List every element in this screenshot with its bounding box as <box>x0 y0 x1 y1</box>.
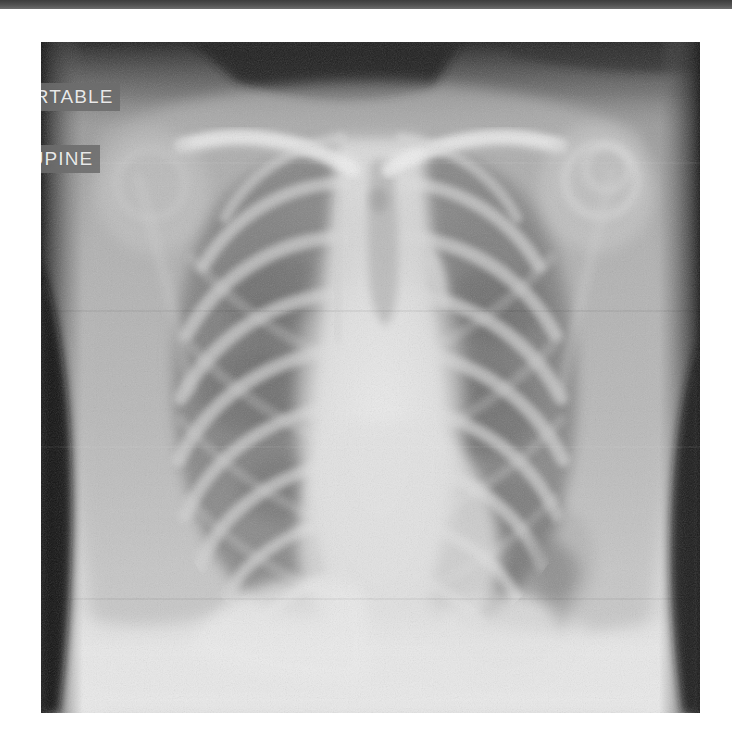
annotation-supine: SUPINE <box>41 145 100 173</box>
screenshot-root: PORTABLE SUPINE <box>0 0 732 750</box>
annotation-portable: PORTABLE <box>41 83 120 111</box>
top-header-bar <box>0 0 732 9</box>
top-header-bar-gradient <box>0 0 732 9</box>
chest-xray-image: PORTABLE SUPINE <box>41 42 700 713</box>
chest-xray-render <box>41 42 700 713</box>
